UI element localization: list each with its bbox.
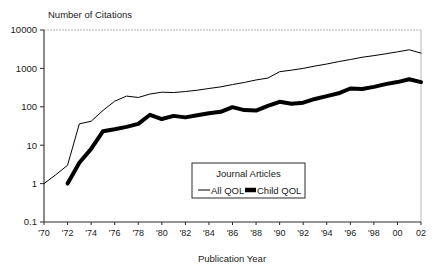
x-tick-label: '72 [62, 228, 74, 238]
legend-title: Journal Articles [216, 168, 281, 179]
x-tick-label: '90 [274, 228, 286, 238]
x-tick-label: '78 [132, 228, 144, 238]
y-tick-label: 100 [21, 101, 37, 112]
x-axis-title: Publication Year [198, 253, 266, 264]
legend-label-child-qol: Child QOL [257, 185, 301, 196]
citations-line-chart: 1000010001001010.1 '70'72'74'76'78'80'82… [0, 0, 438, 272]
y-tick-label: 10 [26, 140, 37, 151]
legend: Journal Articles All QOL Child QOL [192, 163, 305, 198]
x-tick-label: '88 [250, 228, 262, 238]
y-tick-label: 1 [32, 178, 37, 189]
x-tick-label: '76 [109, 228, 121, 238]
x-tick-label: '98 [368, 228, 380, 238]
x-tick-label: 00 [392, 228, 402, 238]
legend-label-all-qol: All QOL [211, 185, 244, 196]
y-tick-label: 0.1 [24, 216, 37, 227]
chart-canvas: 1000010001001010.1 '70'72'74'76'78'80'82… [0, 0, 438, 272]
x-tick-label: '84 [203, 228, 215, 238]
x-tick-label: '94 [321, 228, 333, 238]
x-tick-label: '70 [38, 228, 50, 238]
x-tick-label: '96 [344, 228, 356, 238]
x-tick-label: '82 [180, 228, 192, 238]
y-tick-label: 10000 [11, 24, 37, 35]
x-tick-label: '86 [227, 228, 239, 238]
x-tick-label: '74 [85, 228, 97, 238]
y-axis-title: Number of Citations [48, 9, 132, 20]
x-tick-label: '80 [156, 228, 168, 238]
x-tick-labels: '70'72'74'76'78'80'82'84'86'88'90'92'94'… [38, 228, 426, 238]
y-tick-label: 1000 [16, 63, 37, 74]
x-tick-label: '92 [297, 228, 309, 238]
x-tick-label: 02 [416, 228, 426, 238]
